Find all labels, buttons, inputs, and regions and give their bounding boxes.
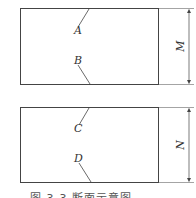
label-c: C	[74, 122, 83, 135]
upper-block: A B M	[21, 9, 195, 85]
figure-caption: 图 3-3 断面示意图	[30, 189, 132, 198]
label-a: A	[73, 24, 82, 37]
dimension-label-m: M	[174, 40, 187, 53]
lower-rectangle	[21, 108, 159, 183]
label-d: D	[73, 152, 83, 165]
diagram-canvas: A B M C D N	[0, 0, 196, 198]
leader-line-d	[79, 163, 91, 182]
label-b: B	[73, 54, 82, 67]
upper-rectangle	[21, 9, 159, 85]
lower-block: C D N	[21, 108, 195, 183]
dimension-label-n: N	[174, 140, 187, 151]
leader-line-b	[78, 65, 90, 84]
